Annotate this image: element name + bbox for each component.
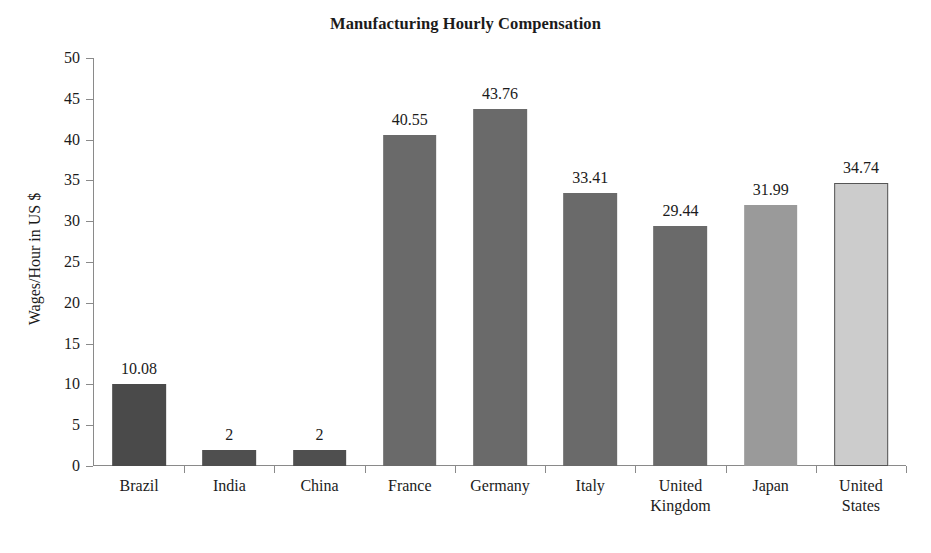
y-axis-tick-label: 40 [64, 132, 80, 148]
bar-value-label: 2 [225, 427, 233, 443]
x-axis-label-line: Kingdom [635, 496, 725, 516]
bar[interactable] [654, 226, 708, 466]
bar[interactable] [202, 450, 256, 466]
x-axis-category-label: Italy [545, 476, 635, 496]
x-axis-tick [816, 466, 817, 473]
x-axis-category-label: India [184, 476, 274, 496]
x-axis-tick [726, 466, 727, 473]
bar[interactable] [383, 135, 437, 466]
x-axis-category-label: UnitedStates [816, 476, 906, 517]
x-axis-label-line: United [635, 476, 725, 496]
y-axis-tick-label: 20 [64, 295, 80, 311]
bar-slot: 2 [184, 58, 274, 466]
bar-value-label: 33.41 [572, 170, 608, 186]
x-axis-tick [365, 466, 366, 473]
y-axis-tick [86, 180, 93, 181]
y-axis-tick-label: 30 [64, 213, 80, 229]
y-axis-tick-label: 0 [72, 458, 80, 474]
chart-container: Manufacturing Hourly Compensation Wages/… [0, 0, 931, 553]
y-axis-tick [86, 466, 93, 467]
y-axis-tick-label: 10 [64, 376, 80, 392]
bar-value-label: 43.76 [482, 86, 518, 102]
bar[interactable] [293, 450, 347, 466]
bar-value-label: 40.55 [392, 112, 428, 128]
bar-slot: 43.76 [455, 58, 545, 466]
x-axis-tick [635, 466, 636, 473]
bar-value-label: 10.08 [121, 361, 157, 377]
y-axis-tick [86, 344, 93, 345]
x-axis-category-label: Japan [726, 476, 816, 496]
x-axis-tick [455, 466, 456, 473]
y-axis-tick [86, 384, 93, 385]
bar[interactable] [563, 193, 617, 466]
y-axis-tick [86, 303, 93, 304]
x-axis-category-label: France [365, 476, 455, 496]
x-axis-label-line: States [816, 496, 906, 516]
bar-slot: 40.55 [365, 58, 455, 466]
x-axis-category-label: UnitedKingdom [635, 476, 725, 517]
y-axis-tick-label: 5 [72, 417, 80, 433]
x-axis-category-label: Germany [455, 476, 545, 496]
y-axis-title: Wages/Hour in US $ [26, 192, 44, 324]
x-axis-tick [184, 466, 185, 473]
bar-value-label: 31.99 [753, 182, 789, 198]
bar-slot: 34.74 [816, 58, 906, 466]
bar-value-label: 34.74 [843, 160, 879, 176]
y-axis-tick-label: 45 [64, 91, 80, 107]
y-axis-tick [86, 425, 93, 426]
x-axis-tick [545, 466, 546, 473]
bar-slot: 29.44 [635, 58, 725, 466]
y-axis-tick [86, 58, 93, 59]
bar-value-label: 2 [316, 427, 324, 443]
bar[interactable] [112, 384, 166, 466]
x-axis-label-line: United [816, 476, 906, 496]
bar-slot: 2 [274, 58, 364, 466]
y-axis-title-wrapper: Wages/Hour in US $ [22, 52, 48, 465]
y-axis-tick [86, 221, 93, 222]
bar-slot: 33.41 [545, 58, 635, 466]
bar-slot: 10.08 [94, 58, 184, 466]
y-axis-tick [86, 262, 93, 263]
bar[interactable] [834, 183, 888, 466]
y-axis-tick-label: 35 [64, 172, 80, 188]
y-axis-tick-label: 50 [64, 50, 80, 66]
x-axis-category-label: Brazil [94, 476, 184, 496]
x-axis-tick [906, 466, 907, 473]
bar-value-label: 29.44 [662, 203, 698, 219]
bar[interactable] [744, 205, 798, 466]
chart-title: Manufacturing Hourly Compensation [0, 14, 931, 34]
x-axis-tick [274, 466, 275, 473]
y-axis-tick-label: 15 [64, 336, 80, 352]
y-axis-tick [86, 140, 93, 141]
y-axis-tick-label: 25 [64, 254, 80, 270]
x-axis-category-label: China [274, 476, 364, 496]
bar-slot: 31.99 [726, 58, 816, 466]
plot-area: 0510152025303540455010.082240.5543.7633.… [94, 58, 906, 466]
y-axis-tick [86, 99, 93, 100]
bar[interactable] [473, 109, 527, 466]
